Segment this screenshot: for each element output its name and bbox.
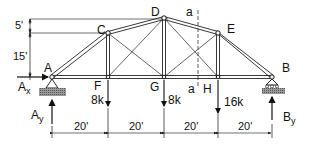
reaction-by-main: B (283, 110, 291, 124)
node-label-h: H (203, 82, 212, 96)
dim-span-2: 20' (129, 120, 143, 132)
reaction-ax-sub: x (26, 86, 31, 96)
pin-support-a (39, 79, 66, 96)
load-g-label: 8k (168, 93, 182, 107)
section-label-bottom: a (188, 82, 195, 96)
load-g: 8k (164, 80, 182, 107)
reaction-ay: Ay (31, 100, 52, 124)
node-label-e: E (227, 22, 235, 36)
node-label-a: A (44, 61, 52, 75)
vertical-dimension: 5' 15' (13, 19, 168, 80)
truss-members (51, 17, 273, 79)
dim-span-4: 20' (238, 120, 252, 132)
reaction-ay-sub: y (39, 114, 44, 124)
dim-15ft: 15' (13, 50, 27, 62)
roller-support-b (262, 79, 285, 94)
node-label-f: F (94, 79, 101, 93)
node-label-b: B (282, 61, 290, 75)
svg-text:Ay: Ay (31, 108, 44, 124)
svg-text:By: By (283, 110, 296, 126)
truss-joints (50, 16, 274, 79)
dim-span-1: 20' (74, 120, 88, 132)
truss-diagram: 5' 15' (0, 0, 310, 147)
load-h-label: 16k (224, 95, 244, 109)
node-label-g: G (150, 80, 159, 94)
reaction-by: By (272, 97, 296, 126)
svg-text:Ax: Ax (18, 80, 31, 96)
reaction-by-sub: y (291, 116, 296, 126)
reaction-ay-main: A (31, 108, 39, 122)
load-f-label: 8k (91, 93, 105, 107)
dim-5ft: 5' (15, 19, 23, 31)
section-label-top: a (186, 5, 193, 19)
reaction-ax-main: A (18, 80, 26, 94)
horizontal-dimension: 20' 20' 20' 20' (52, 108, 272, 138)
dim-span-3: 20' (184, 120, 198, 132)
load-h: 16k (218, 80, 244, 113)
node-label-d: D (151, 5, 160, 19)
node-label-c: C (97, 23, 106, 37)
